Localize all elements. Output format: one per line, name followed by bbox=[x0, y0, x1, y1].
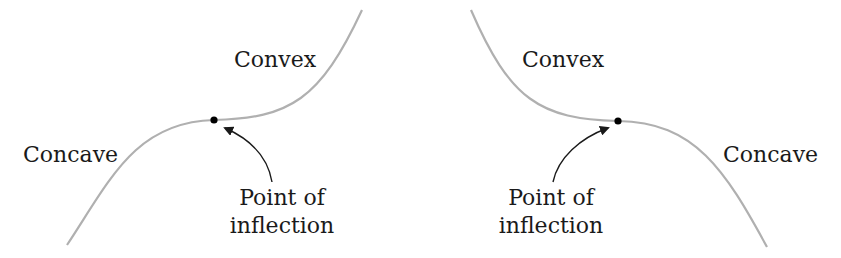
left-pointer-arrow bbox=[225, 128, 272, 182]
left-inflection-point bbox=[210, 116, 217, 123]
right-concave-label: Concave bbox=[723, 141, 818, 169]
inflection-diagram bbox=[0, 0, 841, 258]
left-point-label-line2: inflection bbox=[222, 212, 342, 240]
right-point-label-line2: inflection bbox=[491, 212, 611, 240]
left-point-label-line1: Point of bbox=[222, 184, 342, 212]
left-point-label: Point of inflection bbox=[222, 184, 342, 240]
left-convex-label: Convex bbox=[234, 46, 316, 74]
right-point-label: Point of inflection bbox=[491, 184, 611, 240]
right-point-label-line1: Point of bbox=[491, 184, 611, 212]
right-inflection-point bbox=[614, 117, 621, 124]
right-convex-label: Convex bbox=[522, 46, 604, 74]
left-concave-label: Concave bbox=[23, 141, 118, 169]
right-pointer-arrow bbox=[553, 128, 608, 182]
